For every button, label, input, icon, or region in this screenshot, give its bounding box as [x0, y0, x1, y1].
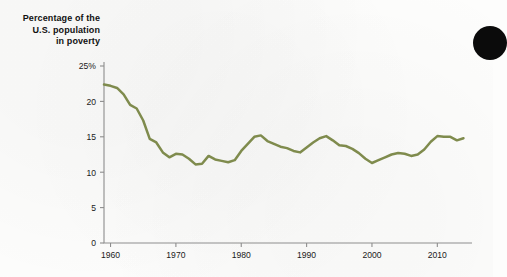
x-tick-label: 2010: [428, 250, 447, 260]
y-tick-label: 10: [86, 168, 96, 178]
y-tick-label: 0: [91, 238, 96, 248]
x-tick-label: 1980: [232, 250, 251, 260]
y-tick-label: 15: [86, 132, 96, 142]
y-tick-label: 25%: [79, 61, 97, 71]
black-circle-marker: [473, 26, 507, 60]
x-tick-label: 1960: [101, 250, 120, 260]
y-tick-label: 20: [86, 97, 96, 107]
x-tick-label: 1970: [166, 250, 185, 260]
y-tick-label: 5: [91, 203, 96, 213]
chart-tick-labels: 0510152025%196019701980199020002010: [79, 61, 447, 260]
chart-series: [104, 84, 463, 164]
data-line-poverty-rate: [104, 84, 463, 164]
x-tick-label: 2000: [362, 250, 381, 260]
x-tick-label: 1990: [297, 250, 316, 260]
